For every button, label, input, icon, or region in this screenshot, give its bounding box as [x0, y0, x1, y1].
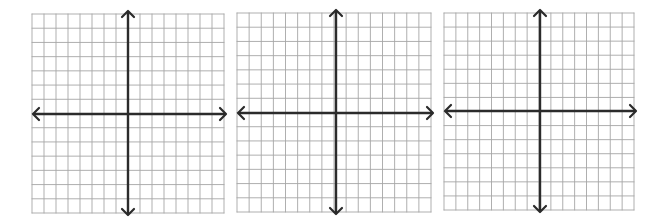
- coordinate-plane-2: [237, 10, 433, 214]
- coordinate-plane-3: [444, 10, 636, 212]
- coordinate-plane-1: [32, 11, 226, 215]
- figure-canvas: [0, 0, 664, 223]
